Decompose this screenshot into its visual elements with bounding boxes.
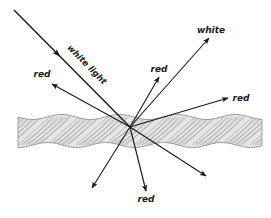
ray-label-upper-right: white: [197, 25, 225, 35]
incoming-ray-line: [14, 10, 130, 127]
ray-label-down: red: [138, 194, 156, 204]
ray-label-up: red: [151, 64, 169, 74]
light-scattering-diagram: white light redredwhiteredred: [0, 0, 271, 218]
ray-upper-right: [130, 38, 209, 127]
incoming-white-light-ray: white light: [14, 10, 130, 127]
ray-label-right: red: [233, 93, 251, 103]
incoming-ray-label: white light: [65, 43, 109, 87]
ray-label-upper-left: red: [34, 69, 52, 79]
